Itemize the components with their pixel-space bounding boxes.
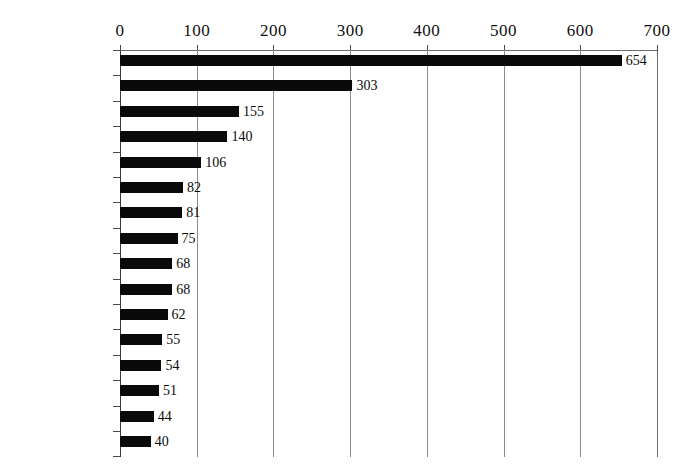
bar xyxy=(120,309,168,320)
x-tick-label: 0 xyxy=(90,22,150,39)
plot-right-border xyxy=(657,50,658,457)
gridline xyxy=(350,50,351,457)
bar-value-label: 140 xyxy=(231,130,252,144)
bar xyxy=(120,436,151,447)
bar-chart: 0100200300400500600700 イネスイカイチゴウリ類サツマイモダ… xyxy=(0,0,677,474)
bar xyxy=(120,80,352,91)
y-tick-mark xyxy=(113,177,120,178)
bar xyxy=(120,411,154,422)
x-tick-label: 300 xyxy=(320,22,380,39)
bar-value-label: 51 xyxy=(163,384,177,398)
y-tick-mark xyxy=(113,228,120,229)
x-tick-label: 400 xyxy=(397,22,457,39)
gridline xyxy=(504,50,505,457)
bar xyxy=(120,182,183,193)
gridline xyxy=(580,50,581,457)
bar-value-label: 68 xyxy=(176,283,190,297)
bar-value-label: 55 xyxy=(166,333,180,347)
bar xyxy=(120,55,622,66)
bar xyxy=(120,131,227,142)
y-tick-mark xyxy=(113,152,120,153)
bar xyxy=(120,106,239,117)
bar xyxy=(120,157,201,168)
x-tick-mark xyxy=(120,45,121,51)
y-tick-mark xyxy=(113,279,120,280)
y-tick-mark xyxy=(113,304,120,305)
gridline xyxy=(273,50,274,457)
bar-value-label: 155 xyxy=(243,105,264,119)
y-tick-mark xyxy=(113,456,120,457)
x-tick-label: 500 xyxy=(474,22,534,39)
y-tick-mark xyxy=(113,75,120,76)
y-tick-mark xyxy=(113,406,120,407)
bar-value-label: 62 xyxy=(172,308,186,322)
y-tick-mark xyxy=(113,202,120,203)
bar xyxy=(120,207,182,218)
x-tick-label: 600 xyxy=(550,22,610,39)
bar-value-label: 106 xyxy=(205,156,226,170)
gridline xyxy=(427,50,428,457)
x-tick-label: 700 xyxy=(627,22,677,39)
y-tick-mark xyxy=(113,380,120,381)
bar xyxy=(120,233,178,244)
y-tick-mark xyxy=(113,329,120,330)
y-tick-mark xyxy=(113,355,120,356)
y-tick-mark xyxy=(113,253,120,254)
y-tick-mark xyxy=(113,431,120,432)
bar-value-label: 303 xyxy=(356,79,377,93)
x-tick-label: 200 xyxy=(243,22,303,39)
bar xyxy=(120,360,161,371)
bar-value-label: 75 xyxy=(182,232,196,246)
bar xyxy=(120,385,159,396)
bar-value-label: 40 xyxy=(155,435,169,449)
y-tick-mark xyxy=(113,101,120,102)
x-tick-label: 100 xyxy=(167,22,227,39)
bar xyxy=(120,334,162,345)
bar-value-label: 68 xyxy=(176,257,190,271)
y-tick-mark xyxy=(113,50,120,51)
x-axis-line xyxy=(120,50,658,51)
bar xyxy=(120,284,172,295)
x-tick-mark xyxy=(657,45,658,51)
bar-value-label: 82 xyxy=(187,181,201,195)
bar xyxy=(120,258,172,269)
bar-value-label: 81 xyxy=(186,206,200,220)
bar-value-label: 654 xyxy=(626,54,647,68)
bar-value-label: 44 xyxy=(158,410,172,424)
y-tick-mark xyxy=(113,126,120,127)
bar-value-label: 54 xyxy=(165,359,179,373)
